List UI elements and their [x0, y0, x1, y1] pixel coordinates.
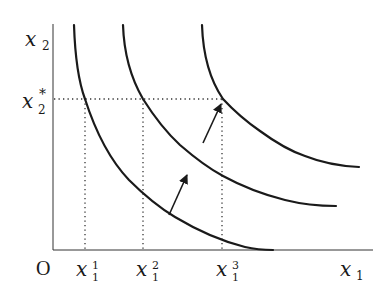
x-marker-2: x 2 1: [136, 257, 159, 284]
x-marker-1: x 1 1: [76, 257, 99, 284]
indifference-curve-3: [202, 25, 359, 167]
indifference-curve-diagram: x 2 x 2 * O x 1 1 x 2 1 x 3 1 x 1: [0, 0, 384, 288]
svg-text:x: x: [25, 27, 36, 51]
dotted-guides: [54, 99, 222, 250]
svg-text:1: 1: [232, 271, 239, 284]
shift-arrow-2-to-3: [203, 104, 221, 143]
y-marker-x2-star: x 2 *: [22, 86, 46, 117]
svg-text:x: x: [76, 257, 87, 281]
svg-text:1: 1: [152, 271, 159, 284]
y-axis-label: x 2: [25, 27, 50, 53]
indifference-curve-2: [123, 25, 336, 206]
svg-text:1: 1: [92, 271, 99, 284]
svg-text:2: 2: [42, 39, 50, 53]
svg-text:x: x: [340, 257, 351, 281]
shift-arrow-1-to-2: [169, 175, 187, 215]
svg-text:x: x: [22, 89, 33, 113]
x-marker-3: x 3 1: [216, 257, 239, 284]
x-axis-label: x 1: [340, 257, 364, 283]
origin-label: O: [36, 257, 50, 279]
svg-text:1: 1: [356, 269, 364, 283]
svg-text:x: x: [216, 257, 227, 281]
svg-text:x: x: [136, 257, 147, 281]
svg-text:2: 2: [38, 103, 46, 117]
svg-text:*: *: [39, 86, 46, 102]
